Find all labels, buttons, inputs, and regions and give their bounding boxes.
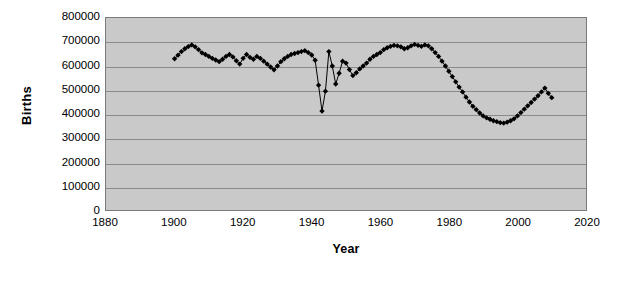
y-axis-tick-labels: 0100000200000300000400000500000600000700… [38, 17, 100, 211]
data-point-marker [312, 58, 317, 63]
x-axis-tick-label: 1940 [277, 216, 347, 230]
y-axis-tick-label: 700000 [38, 36, 100, 48]
births-by-year-chart: Births 010000020000030000040000050000060… [0, 0, 625, 283]
x-axis-tick-label: 2020 [552, 216, 622, 230]
x-axis-tick-label: 1880 [70, 216, 140, 230]
y-axis-tick-label: 200000 [38, 157, 100, 169]
data-point-marker [316, 83, 321, 88]
data-point-marker [450, 74, 455, 79]
y-axis-tick-label: 800000 [38, 11, 100, 23]
y-axis-title-label: Births [19, 86, 34, 125]
data-point-marker [319, 108, 324, 113]
y-axis-tick-label: 500000 [38, 84, 100, 96]
x-axis-tick-label: 1980 [414, 216, 484, 230]
series-births [106, 18, 586, 210]
x-axis-title: Year [105, 242, 587, 256]
data-point-marker [453, 79, 458, 84]
y-axis-tick-label: 400000 [38, 108, 100, 120]
x-axis-tick-label: 2000 [483, 216, 553, 230]
data-point-marker [336, 71, 341, 76]
data-point-marker [323, 89, 328, 94]
x-axis-tick-labels: 18801900192019401960198020002020 [0, 216, 625, 234]
x-axis-tick-label: 1960 [345, 216, 415, 230]
data-point-marker [326, 49, 331, 54]
y-axis-title: Births [14, 0, 38, 211]
x-axis-tick-label: 1900 [139, 216, 209, 230]
data-point-marker [333, 81, 338, 86]
data-point-marker [347, 67, 352, 72]
data-point-marker [446, 69, 451, 74]
y-axis-tick-label: 300000 [38, 133, 100, 145]
data-point-marker [330, 63, 335, 68]
plot-area [105, 17, 587, 211]
y-axis-tick-label: 600000 [38, 60, 100, 72]
x-axis-tick-label: 1920 [208, 216, 278, 230]
y-axis-tick-label: 100000 [38, 181, 100, 193]
